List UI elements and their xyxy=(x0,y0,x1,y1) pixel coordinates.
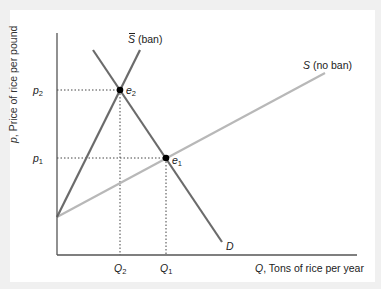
y-axis-label: p, Price of rice per pound xyxy=(7,26,19,143)
supply-ban-curve xyxy=(57,50,140,217)
demand-curve xyxy=(93,50,222,242)
x-axis-text: , Tons of rice per year xyxy=(263,262,364,274)
p2-sub: 2 xyxy=(39,89,43,98)
p1-sub: 1 xyxy=(39,157,43,166)
supply-ban-text: (ban) xyxy=(135,33,162,45)
e1-label: e1 xyxy=(172,155,182,166)
supply-ban-var: S xyxy=(128,34,135,45)
equilibrium-e1-point xyxy=(163,155,170,162)
q2-sub: 2 xyxy=(122,267,126,276)
chart-plot xyxy=(0,0,381,289)
e2-sub: 2 xyxy=(132,89,136,98)
e2-label: e2 xyxy=(126,85,136,96)
q2-tick-label: Q2 xyxy=(114,263,126,274)
supply-no-ban-text: (no ban) xyxy=(310,59,352,71)
p1-tick-label: p1 xyxy=(33,153,43,164)
supply-ban-label: S (ban) xyxy=(128,34,162,45)
x-axis-var: Q xyxy=(255,262,263,274)
supply-no-ban-var: S xyxy=(303,59,310,71)
y-axis-text: , Price of rice per pound xyxy=(7,26,19,137)
e1-sub: 1 xyxy=(178,159,182,168)
q1-sub: 1 xyxy=(168,267,172,276)
x-axis-label: Q, Tons of rice per year xyxy=(255,263,364,274)
p2-tick-label: p2 xyxy=(33,85,43,96)
equilibrium-e2-point xyxy=(117,87,124,94)
demand-label: D xyxy=(226,241,234,252)
y-axis-var: p xyxy=(7,137,19,143)
q2-var: Q xyxy=(114,262,122,274)
q1-var: Q xyxy=(160,262,168,274)
q1-tick-label: Q1 xyxy=(160,263,172,274)
supply-no-ban-label: S (no ban) xyxy=(303,60,352,71)
